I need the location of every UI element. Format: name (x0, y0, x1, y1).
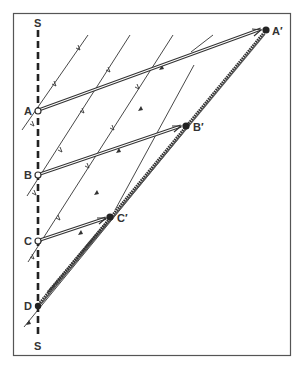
point-b-label: B (24, 169, 32, 181)
parallel-lines (22, 35, 213, 327)
tick-icon (58, 147, 62, 152)
point-d-marker (35, 303, 41, 309)
point-a-marker (35, 108, 41, 114)
point-a-prime-label: A′ (272, 25, 283, 37)
tick-icon (26, 320, 31, 325)
point-b-prime-label: B′ (193, 121, 204, 133)
tick-icon (76, 45, 80, 50)
arrow-a-to-a-prime (40, 29, 261, 110)
point-b-prime-marker (182, 122, 189, 129)
point-c-marker (35, 238, 41, 244)
s-axis-bottom-label: S (34, 340, 41, 352)
s-axis-top-label: S (34, 17, 41, 29)
figure-border (14, 14, 291, 356)
front-line (40, 33, 265, 304)
tick-icon (85, 163, 89, 168)
point-b-marker (35, 172, 41, 178)
point-c-prime-label: C′ (117, 212, 128, 224)
connection-arrows (40, 29, 261, 240)
tick-icon (32, 190, 36, 195)
tick-icon (110, 125, 114, 130)
point-a-label: A (24, 105, 32, 117)
point-a-prime-marker (262, 26, 269, 33)
tick-icon (94, 190, 99, 195)
diagram-figure: S S A B C D A′ B′ C′ (0, 0, 303, 365)
front-line-inner (48, 222, 107, 292)
point-c-prime-marker (106, 213, 113, 220)
point-d-label: D (24, 300, 32, 312)
tick-icon (30, 121, 34, 126)
tick-icon (78, 230, 83, 235)
tick-icon (138, 106, 143, 111)
parallel-line-5 (115, 65, 194, 210)
tick-icon (135, 84, 139, 89)
filled-tick-marks (26, 65, 164, 325)
point-c-label: C (24, 235, 32, 247)
